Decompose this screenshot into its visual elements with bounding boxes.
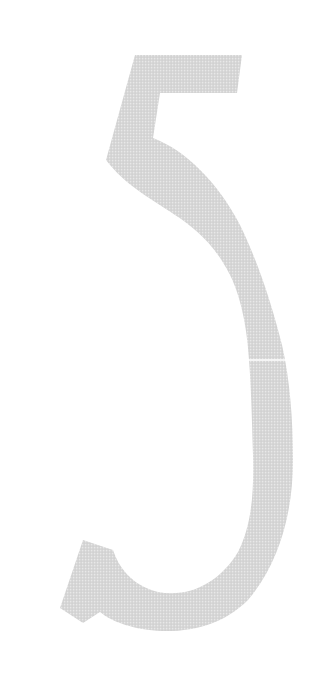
digit-five-graphic — [0, 0, 329, 681]
digit-five-shape — [60, 55, 293, 631]
canvas: 5 — [0, 0, 329, 681]
